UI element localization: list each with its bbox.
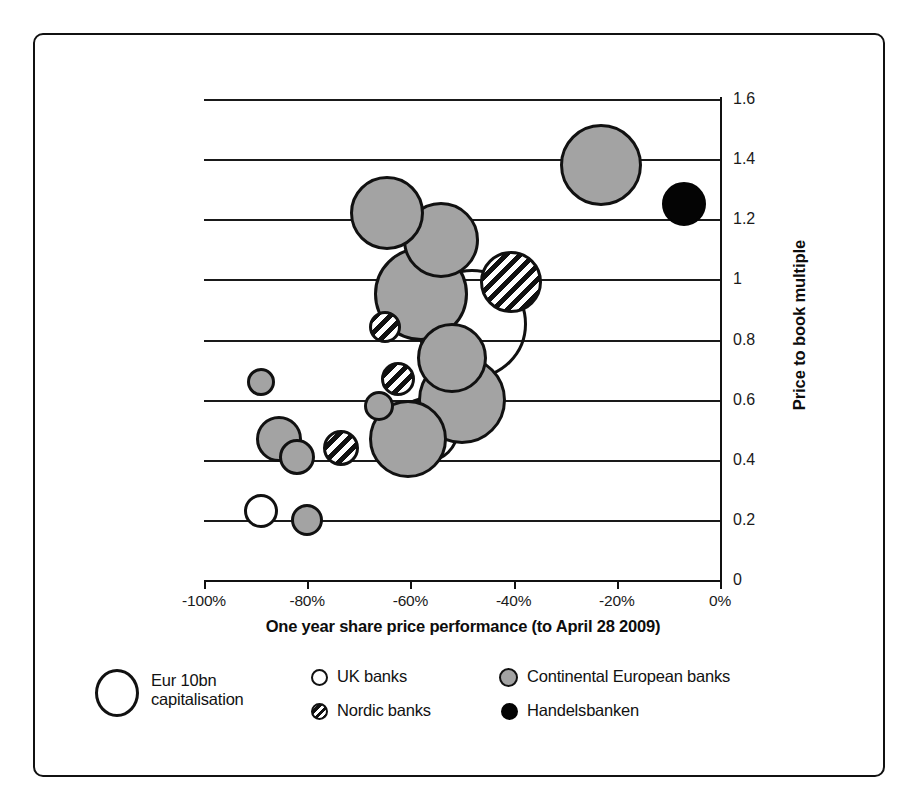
x-axis-tick — [307, 580, 309, 589]
data-bubble — [381, 362, 415, 396]
x-axis-tick — [617, 580, 619, 589]
x-axis-tick — [204, 580, 206, 589]
black-circle-icon — [501, 703, 518, 720]
x-axis-tick-label: 0% — [709, 592, 731, 610]
x-axis-tick — [720, 580, 722, 589]
legend-nordic-banks: Nordic banks — [337, 701, 431, 720]
legend-uk-banks: UK banks — [337, 667, 407, 686]
y-axis-tick-label: 1.6 — [733, 90, 755, 108]
x-axis-tick — [514, 580, 516, 589]
y-axis-tick-label: 0 — [733, 571, 742, 589]
x-axis-tick — [410, 580, 412, 589]
y-axis-tick-label: 0.8 — [733, 331, 755, 349]
data-bubble — [364, 391, 394, 421]
x-axis-tick-label: -80% — [289, 592, 324, 610]
hatched-circle-icon — [311, 703, 328, 720]
y-axis-tick-label: 1.2 — [733, 210, 755, 228]
data-bubble — [244, 494, 278, 528]
data-bubble — [247, 368, 275, 396]
data-bubble — [279, 439, 315, 475]
data-bubble — [662, 182, 706, 226]
big-outline-circle-icon — [95, 669, 139, 717]
data-bubble — [480, 251, 542, 313]
legend-capitalisation: Eur 10bn capitalisation — [151, 671, 244, 710]
y-axis-tick-label: 1 — [733, 270, 742, 288]
x-axis-tick-label: -20% — [599, 592, 634, 610]
x-axis-tick-label: -40% — [496, 592, 531, 610]
legend-continental-banks: Continental European banks — [527, 667, 730, 686]
x-axis-line — [204, 580, 722, 582]
data-bubble — [369, 311, 401, 343]
data-bubble — [560, 124, 642, 206]
y-axis-tick-label: 0.2 — [733, 511, 755, 529]
y-axis-line — [720, 97, 722, 583]
x-axis-title: One year share price performance (to Apr… — [204, 617, 722, 636]
y-axis-tick-label: 0.4 — [733, 451, 755, 469]
y-axis-tick-label: 0.6 — [733, 391, 755, 409]
y-axis-tick-label: 1.4 — [733, 150, 755, 168]
grey-circle-icon — [499, 668, 518, 687]
chart-legend: Eur 10bn capitalisationUK banksNordic ba… — [95, 663, 855, 739]
x-axis-tick-label: -100% — [182, 592, 226, 610]
data-bubble — [291, 504, 323, 536]
data-bubble — [323, 430, 359, 466]
white-circle-icon — [311, 669, 328, 686]
y-axis-title: Price to book multiple — [790, 240, 809, 410]
legend-handelsbanken: Handelsbanken — [527, 701, 639, 720]
bubble-chart-figure: -100%-80%-60%-40%-20%0% 00.20.40.60.811.… — [0, 0, 916, 807]
x-axis-tick-label: -60% — [393, 592, 428, 610]
data-bubble — [417, 323, 487, 393]
data-bubble — [350, 176, 424, 250]
